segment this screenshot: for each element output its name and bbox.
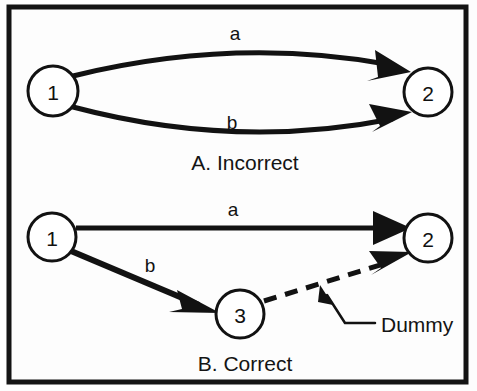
edge-b-dummy-arrowhead — [369, 251, 412, 275]
node-b-3-label: 3 — [234, 304, 246, 327]
panel-b-caption: B. Correct — [198, 352, 293, 375]
edge-a-upper-line — [73, 53, 392, 76]
node-b-3[interactable]: 3 — [216, 290, 264, 338]
edge-label-a-lower: b — [227, 112, 238, 133]
dummy-leader-line — [327, 295, 375, 323]
node-a-1-label: 1 — [47, 81, 59, 104]
edge-b-lower[interactable] — [73, 104, 412, 132]
panel-a-caption: A. Incorrect — [191, 151, 299, 174]
edge-b-lower-arrowhead — [369, 104, 412, 132]
dummy-leader-arrowhead — [318, 285, 333, 305]
dummy-annotation: Dummy — [318, 285, 454, 336]
panel-b: 1 2 3 a b Dummy B. Correct — [28, 199, 454, 375]
network-diagram: 1 2 a b A. Incorrect — [0, 0, 477, 391]
edge-a-upper-arrowhead — [367, 50, 411, 81]
node-a-2[interactable]: 2 — [404, 68, 452, 116]
node-a-2-label: 2 — [422, 82, 434, 105]
panel-a: 1 2 a b A. Incorrect — [28, 23, 452, 174]
node-b-1-label: 1 — [46, 227, 58, 250]
edge-label-a-upper: a — [230, 23, 241, 44]
edge-b-a[interactable] — [76, 211, 411, 245]
node-a-1[interactable]: 1 — [28, 66, 78, 116]
node-b-2[interactable]: 2 — [404, 214, 452, 262]
node-b-1[interactable]: 1 — [28, 213, 76, 261]
edge-label-b-b: b — [145, 255, 156, 276]
edge-b-dummy[interactable] — [264, 251, 412, 301]
edge-a-upper[interactable] — [73, 50, 411, 81]
figure-container: 1 2 a b A. Incorrect — [0, 0, 477, 391]
node-b-2-label: 2 — [422, 228, 434, 251]
dummy-annotation-label: Dummy — [381, 313, 454, 336]
edge-label-b-a: a — [228, 199, 239, 220]
